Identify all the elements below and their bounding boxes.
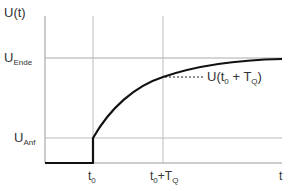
- annotation-pre: U(t: [207, 69, 224, 84]
- annotation-mid: + T: [229, 69, 252, 84]
- u-anf-label: UAnf: [14, 131, 35, 147]
- t0-tq-label: t0+TQ: [150, 170, 178, 185]
- annotation-label: U(t0 + TQ): [207, 70, 262, 86]
- u-anf-sub: Anf: [23, 138, 35, 147]
- diagram-canvas: [0, 0, 294, 191]
- u-ende-label: UEnde: [4, 51, 32, 67]
- t-axis-label: t: [279, 170, 282, 182]
- t-axis-main: t: [279, 169, 282, 183]
- u-anf-main: U: [14, 130, 23, 145]
- u-ende-main: U: [4, 50, 13, 65]
- t0-sub: 0: [91, 176, 95, 185]
- y-axis-label: U(t): [4, 6, 26, 19]
- u-ende-sub: Ende: [13, 58, 32, 67]
- t0-label: t0: [88, 170, 96, 185]
- t0-tq-rest: +T: [158, 169, 172, 183]
- annotation-post: ): [258, 69, 262, 84]
- t0-tq-sub2: Q: [172, 176, 178, 185]
- y-axis-label-text: U(t): [4, 5, 26, 20]
